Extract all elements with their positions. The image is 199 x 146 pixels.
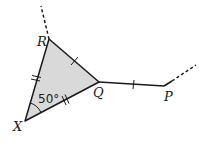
point-label-q: Q (93, 85, 104, 100)
segment-qp (99, 82, 164, 86)
extension-p-solid (164, 81, 172, 86)
tick-mark-qp (133, 80, 134, 89)
point-label-r: R (36, 34, 47, 49)
geometry-diagram: R Q X P 50° (0, 0, 199, 146)
point-label-p: P (163, 89, 173, 104)
angle-label: 50° (38, 92, 59, 106)
point-label-x: X (12, 119, 23, 134)
extension-p-dashed (172, 65, 196, 81)
